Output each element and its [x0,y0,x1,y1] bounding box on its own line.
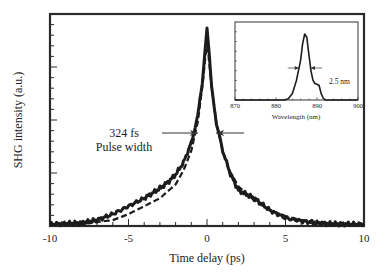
inset-frame [235,22,358,100]
x-tick-label: 10 [359,232,371,244]
pulse-width-label: Pulse width [96,140,152,154]
x-tick-label: 0 [204,232,210,244]
pulse-width-value: 324 fs [109,126,139,140]
autocorrelation-chart: -10-50510 870880890900 SHG intensity (a.… [0,0,387,279]
x-tick-label: 5 [283,232,289,244]
inset-x-tick-label: 870 [230,102,240,109]
x-tick-label: -5 [124,232,134,244]
inset-x-axis-label: Wavelength (nm) [272,113,321,121]
inset-x-tick-label: 900 [353,102,363,109]
y-axis-label: SHG intensity (a.u.) [11,72,25,169]
x-tick-label: -10 [43,232,58,244]
inset-x-tick-label: 880 [271,102,281,109]
inset-bandwidth-label: 2.5 nm [329,77,350,86]
inset-x-tick-label: 890 [312,102,322,109]
inset-spectrum-plot: 870880890900 [230,22,363,109]
x-axis-label: Time delay (ps) [169,251,245,265]
